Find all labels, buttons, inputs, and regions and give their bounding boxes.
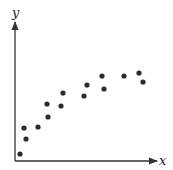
data-point xyxy=(17,151,22,156)
data-point xyxy=(58,103,63,108)
data-point xyxy=(21,125,26,130)
x-axis-label: x xyxy=(159,153,167,168)
data-point xyxy=(121,73,126,78)
scatter-chart: x y xyxy=(0,0,173,170)
data-points xyxy=(17,70,145,156)
data-point xyxy=(81,93,86,98)
data-point xyxy=(140,79,145,84)
y-axis-label: y xyxy=(11,5,20,20)
data-point xyxy=(44,101,49,106)
data-point xyxy=(35,124,40,129)
data-point xyxy=(60,90,65,95)
data-point xyxy=(23,136,28,141)
data-point xyxy=(136,70,141,75)
data-point xyxy=(99,73,104,78)
data-point xyxy=(101,86,106,91)
data-point xyxy=(84,82,89,87)
data-point xyxy=(45,114,50,119)
